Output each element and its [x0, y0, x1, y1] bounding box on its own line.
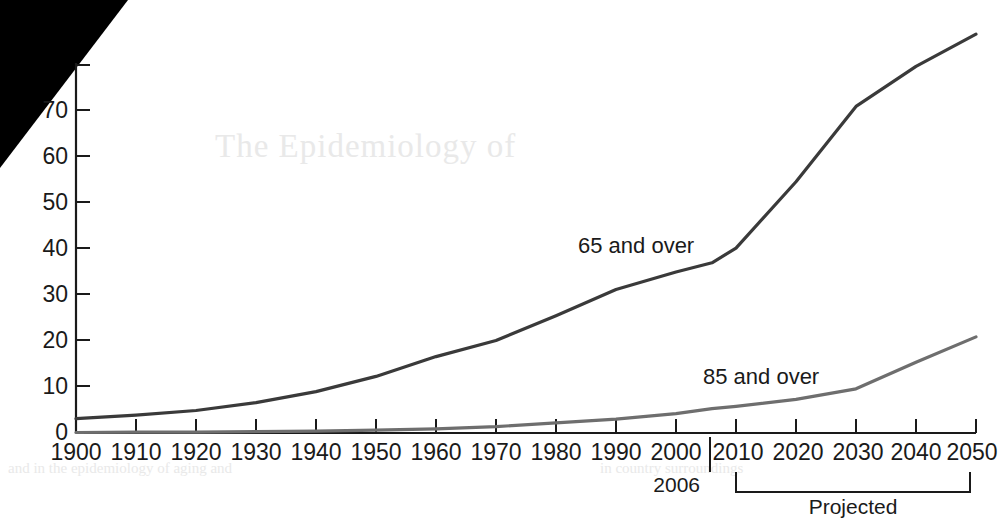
y-tick-label-10: 10 — [42, 373, 68, 399]
x-tick-label-1900: 1900 — [50, 439, 101, 465]
series-label-65-and-over: 65 and over — [578, 233, 694, 258]
x-tick-label-2000: 2000 — [650, 439, 701, 465]
y-tick-label-30: 30 — [42, 281, 68, 307]
x-tick-label-1920: 1920 — [170, 439, 221, 465]
y-tick-label-40: 40 — [42, 235, 68, 261]
series-line-85-and-over — [76, 337, 976, 433]
chart-page: The Epidemiology of and in the epidemiol… — [0, 0, 1001, 519]
x-tick-label-2010: 2010 — [712, 439, 763, 465]
y-tick-label-50: 50 — [42, 189, 68, 215]
y-axis-tick-labels: 70 60 50 40 30 20 10 0 — [42, 97, 68, 445]
x-tick-label-2020: 2020 — [772, 439, 823, 465]
x-tick-label-2030: 2030 — [832, 439, 883, 465]
series-label-85-and-over: 85 and over — [703, 364, 819, 389]
reference-year-label-2006: 2006 — [653, 473, 700, 496]
projection-bracket — [736, 472, 970, 492]
x-tick-label-1910: 1910 — [110, 439, 161, 465]
y-axis-ticks — [76, 65, 90, 386]
line-chart: 70 60 50 40 30 20 10 0 — [0, 0, 1001, 519]
x-tick-label-1960: 1960 — [410, 439, 461, 465]
x-tick-label-2050: 2050 — [946, 439, 997, 465]
x-tick-label-2040: 2040 — [890, 439, 941, 465]
x-tick-label-1950: 1950 — [350, 439, 401, 465]
x-tick-label-1930: 1930 — [230, 439, 281, 465]
projection-label: Projected — [809, 495, 898, 518]
x-axis-tick-labels: 1900 1910 1920 1930 1940 1950 1960 1970 … — [50, 439, 997, 465]
y-tick-label-60: 60 — [42, 143, 68, 169]
y-tick-label-20: 20 — [42, 327, 68, 353]
series-line-65-and-over — [76, 34, 976, 419]
x-tick-label-1970: 1970 — [470, 439, 521, 465]
x-tick-label-1980: 1980 — [530, 439, 581, 465]
y-axis: 70 60 50 40 30 20 10 0 — [42, 63, 90, 445]
x-tick-label-1940: 1940 — [290, 439, 341, 465]
x-tick-label-1990: 1990 — [590, 439, 641, 465]
y-tick-label-70: 70 — [42, 97, 68, 123]
